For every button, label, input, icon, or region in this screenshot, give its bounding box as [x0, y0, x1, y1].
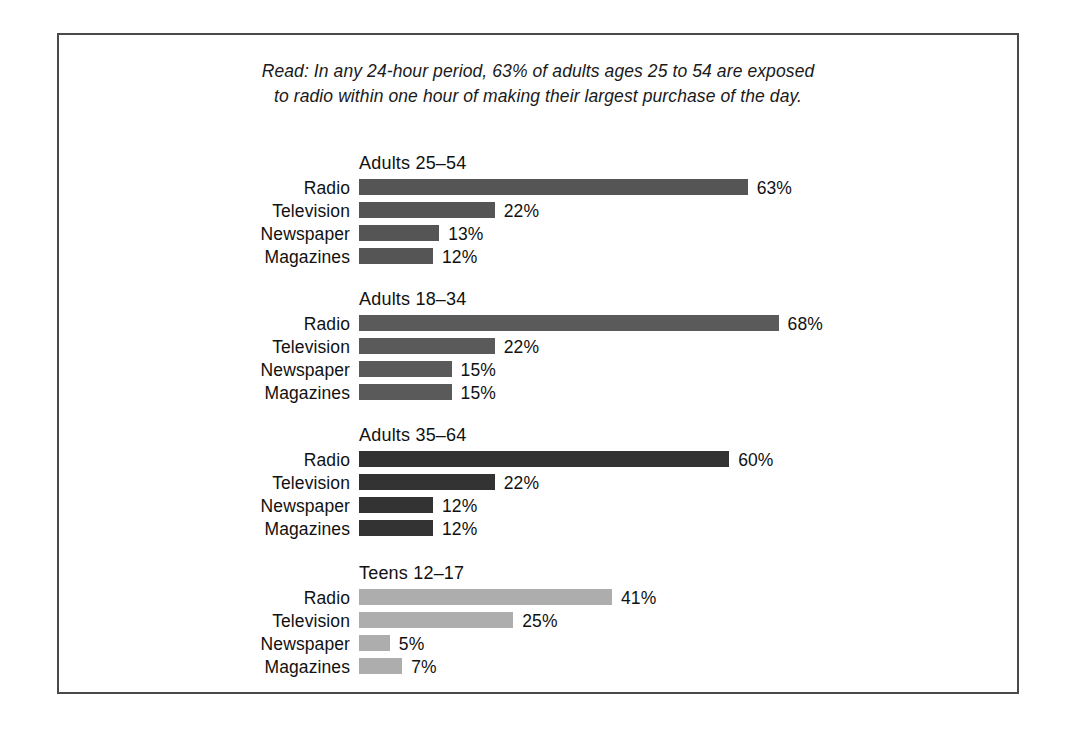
caption-line-2: to radio within one hour of making their…: [59, 84, 1017, 109]
chart-row: Newspaper5%: [59, 635, 1017, 658]
chart-row: Newspaper13%: [59, 225, 1017, 248]
bar-value-label: 22%: [504, 475, 539, 492]
bar-value-label: 15%: [461, 385, 496, 402]
bar: [359, 497, 433, 513]
category-label: Television: [59, 475, 350, 492]
group-title: Adults 25–54: [359, 153, 466, 174]
bar: [359, 248, 433, 264]
chart-frame: Read: In any 24-hour period, 63% of adul…: [57, 33, 1019, 694]
bar: [359, 384, 452, 400]
category-label: Radio: [59, 180, 350, 197]
bar-value-label: 12%: [442, 521, 477, 538]
bar: [359, 589, 612, 605]
bar-value-label: 60%: [738, 452, 773, 469]
bar-value-label: 13%: [448, 226, 483, 243]
caption-line-1: Read: In any 24-hour period, 63% of adul…: [59, 59, 1017, 84]
bar: [359, 202, 495, 218]
bar-value-label: 15%: [461, 362, 496, 379]
bar-value-label: 12%: [442, 249, 477, 266]
group-rows: Radio68%Television22%Newspaper15%Magazin…: [59, 315, 1017, 407]
bar-value-label: 41%: [621, 590, 656, 607]
category-label: Magazines: [59, 385, 350, 402]
category-label: Magazines: [59, 249, 350, 266]
category-label: Radio: [59, 316, 350, 333]
chart-row: Magazines15%: [59, 384, 1017, 407]
category-label: Newspaper: [59, 362, 350, 379]
bar: [359, 451, 729, 467]
category-label: Magazines: [59, 659, 350, 676]
group-rows: Radio60%Television22%Newspaper12%Magazin…: [59, 451, 1017, 543]
chart-row: Radio60%: [59, 451, 1017, 474]
chart-row: Radio68%: [59, 315, 1017, 338]
bar-value-label: 25%: [522, 613, 557, 630]
category-label: Magazines: [59, 521, 350, 538]
chart-caption: Read: In any 24-hour period, 63% of adul…: [59, 59, 1017, 109]
bar-value-label: 7%: [411, 659, 437, 676]
chart-row: Newspaper12%: [59, 497, 1017, 520]
chart-row: Television22%: [59, 338, 1017, 361]
bar: [359, 225, 439, 241]
bar-value-label: 5%: [399, 636, 425, 653]
category-label: Newspaper: [59, 498, 350, 515]
category-label: Radio: [59, 452, 350, 469]
bar-value-label: 12%: [442, 498, 477, 515]
bar: [359, 338, 495, 354]
category-label: Television: [59, 613, 350, 630]
group-rows: Radio41%Television25%Newspaper5%Magazine…: [59, 589, 1017, 681]
bar: [359, 635, 390, 651]
chart-row: Television22%: [59, 474, 1017, 497]
chart-row: Television25%: [59, 612, 1017, 635]
chart-row: Television22%: [59, 202, 1017, 225]
bar: [359, 658, 402, 674]
group-title: Teens 12–17: [359, 563, 464, 584]
group-title: Adults 18–34: [359, 289, 466, 310]
category-label: Television: [59, 203, 350, 220]
bar: [359, 315, 779, 331]
chart-row: Radio63%: [59, 179, 1017, 202]
category-label: Newspaper: [59, 226, 350, 243]
chart-row: Magazines12%: [59, 248, 1017, 271]
bar-value-label: 22%: [504, 339, 539, 356]
bar: [359, 520, 433, 536]
chart-row: Magazines7%: [59, 658, 1017, 681]
bar-value-label: 68%: [788, 316, 823, 333]
chart-row: Radio41%: [59, 589, 1017, 612]
bar: [359, 179, 748, 195]
category-label: Television: [59, 339, 350, 356]
bar: [359, 612, 513, 628]
bar: [359, 474, 495, 490]
bar-value-label: 63%: [757, 180, 792, 197]
category-label: Newspaper: [59, 636, 350, 653]
chart-row: Magazines12%: [59, 520, 1017, 543]
group-title: Adults 35–64: [359, 425, 466, 446]
bar-value-label: 22%: [504, 203, 539, 220]
chart-row: Newspaper15%: [59, 361, 1017, 384]
bar: [359, 361, 452, 377]
category-label: Radio: [59, 590, 350, 607]
group-rows: Radio63%Television22%Newspaper13%Magazin…: [59, 179, 1017, 271]
